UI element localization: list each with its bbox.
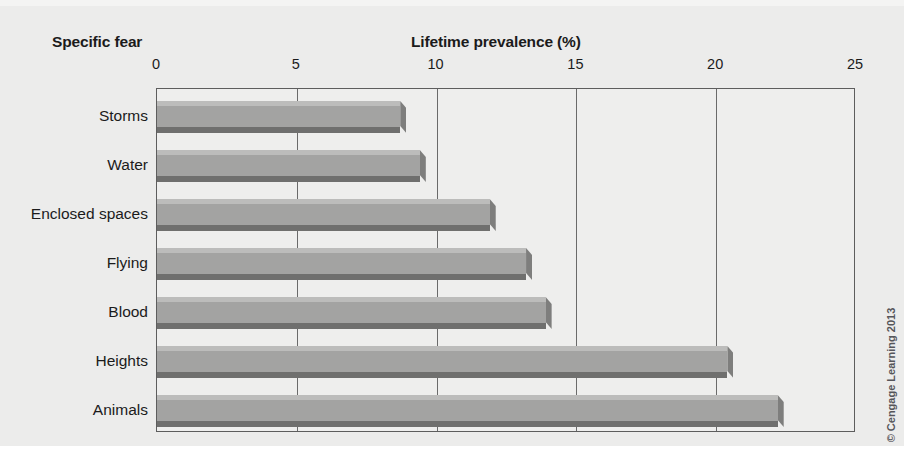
bar-heights	[157, 346, 733, 378]
bar-bottom-shadow	[157, 127, 400, 133]
bar-side-face	[778, 395, 784, 427]
x-tick-label-5: 5	[292, 56, 300, 72]
bar-front-face	[157, 302, 546, 324]
bar-bottom-shadow	[157, 323, 546, 329]
bar-front-face	[157, 155, 420, 177]
category-axis-title: Specific fear	[52, 33, 142, 51]
category-label-flying: Flying	[107, 254, 148, 272]
copyright-text: © Cengage Learning 2013	[885, 308, 897, 443]
bar-front-face	[157, 106, 400, 128]
category-label-enclosed-spaces: Enclosed spaces	[31, 205, 148, 223]
bar-water	[157, 150, 426, 182]
category-label-heights: Heights	[95, 352, 148, 370]
copyright-notice: © Cengage Learning 2013	[882, 300, 900, 450]
x-tick-label-25: 25	[847, 56, 863, 72]
gridline-20	[716, 89, 717, 431]
bar-front-face	[157, 351, 727, 373]
bar-blood	[157, 297, 552, 329]
bar-animals	[157, 395, 784, 427]
x-tick-label-0: 0	[152, 56, 160, 72]
bar-bottom-shadow	[157, 225, 490, 231]
bar-flying	[157, 248, 532, 280]
plot-area	[156, 88, 855, 432]
bar-side-face	[400, 101, 406, 133]
value-axis-title: Lifetime prevalence (%)	[411, 33, 581, 51]
bar-front-face	[157, 204, 490, 226]
bar-bottom-shadow	[157, 274, 526, 280]
x-tick-label-15: 15	[567, 56, 583, 72]
gridline-15	[576, 89, 577, 431]
bar-storms	[157, 101, 406, 133]
category-label-water: Water	[107, 156, 148, 174]
category-label-storms: Storms	[99, 107, 148, 125]
bar-front-face	[157, 253, 526, 275]
bar-side-face	[546, 297, 552, 329]
category-label-animals: Animals	[93, 401, 148, 419]
x-tick-label-20: 20	[707, 56, 723, 72]
category-label-blood: Blood	[108, 303, 148, 321]
bar-bottom-shadow	[157, 372, 727, 378]
bar-enclosed-spaces	[157, 199, 496, 231]
bar-bottom-shadow	[157, 176, 420, 182]
x-tick-label-10: 10	[428, 56, 444, 72]
bar-bottom-shadow	[157, 421, 778, 427]
bar-side-face	[490, 199, 496, 231]
bar-front-face	[157, 400, 778, 422]
bar-side-face	[420, 150, 426, 182]
bar-side-face	[727, 346, 733, 378]
figure-container: Specific fear Lifetime prevalence (%) 05…	[0, 0, 904, 456]
bar-side-face	[526, 248, 532, 280]
